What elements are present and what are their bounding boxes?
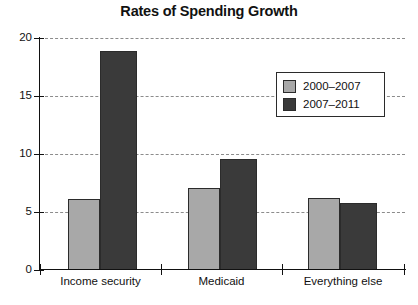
legend-label-2000-2007: 2000–2007 [303, 80, 361, 92]
legend-swatch-dark [283, 98, 296, 111]
y-tick-label-20: 20 [2, 31, 32, 43]
category-label-everything-else: Everything else [282, 275, 404, 287]
y-tick-label-15: 15 [2, 89, 32, 101]
y-tick-label-10: 10 [2, 147, 32, 159]
bar-medicaid-2007-2011 [220, 159, 257, 270]
category-label-medicaid: Medicaid [161, 275, 282, 287]
bar-chart: Rates of Spending Growth 20 15 10 5 0 In… [0, 0, 418, 305]
bar-medicaid-2000-2007 [188, 188, 220, 270]
legend-swatch-light [283, 80, 296, 93]
chart-title: Rates of Spending Growth [0, 3, 418, 19]
bar-everything-else-2007-2011 [340, 203, 377, 270]
y-tick-mark-20 [34, 38, 44, 39]
category-label-income-security: Income security [40, 275, 161, 287]
bar-income-security-2000-2007 [68, 199, 100, 270]
y-tick-label-0: 0 [2, 263, 32, 275]
legend-item-2007-2011: 2007–2011 [283, 95, 378, 113]
bar-income-security-2007-2011 [100, 51, 137, 270]
x-tick-mark-3 [404, 264, 405, 275]
legend-label-2007-2011: 2007–2011 [303, 98, 360, 110]
y-tick-mark-5 [34, 212, 44, 213]
chart-legend: 2000–2007 2007–2011 [276, 72, 385, 117]
y-tick-mark-15 [34, 96, 44, 97]
y-tick-mark-10 [34, 154, 44, 155]
legend-item-2000-2007: 2000–2007 [283, 77, 378, 95]
y-tick-label-5: 5 [2, 205, 32, 217]
x-tick-mark-1 [161, 264, 162, 275]
y-tick-mark-0 [34, 270, 44, 271]
x-axis-line [39, 269, 406, 270]
x-tick-mark-2 [282, 264, 283, 275]
x-tick-mark-0 [40, 264, 41, 275]
bar-everything-else-2000-2007 [308, 198, 340, 270]
